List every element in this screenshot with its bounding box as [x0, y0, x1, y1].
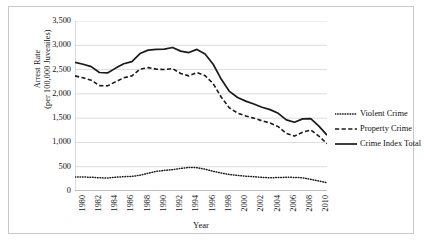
legend-item-violent-crime[interactable]: Violent Crime [335, 106, 421, 121]
y-axis-tick-label: 2,500 [37, 65, 71, 73]
y-axis-tick-labels: 3,5003,0002,5002,0001,5001,0005000 [33, 7, 71, 235]
y-axis-tick-label: 3,000 [37, 41, 71, 49]
chart-legend: Violent CrimeProperty CrimeCrime Index T… [335, 106, 421, 151]
legend-label: Crime Index Total [360, 139, 421, 148]
legend-swatch-solid [335, 139, 357, 149]
series-line-violent-crime [75, 167, 327, 182]
x-axis-tick-label: 1984 [111, 195, 119, 211]
plot-svg [75, 21, 327, 191]
plot-area [75, 21, 327, 191]
x-axis-tick-label: 2002 [257, 195, 265, 211]
chart-figure: Arrest Rate (per 100,000 Juveniles) 3,50… [0, 0, 424, 246]
y-axis-tick-label: 1,000 [37, 138, 71, 146]
legend-item-crime-index-total[interactable]: Crime Index Total [335, 136, 421, 151]
gridlines [75, 21, 327, 167]
x-axis-tick-label: 2008 [306, 195, 314, 211]
data-series-group [75, 47, 327, 182]
x-axis-title: Year [75, 220, 327, 230]
y-axis-tick-label: 2,000 [37, 90, 71, 98]
x-axis-tick-label: 1982 [95, 195, 103, 211]
x-axis-tick-label: 2000 [241, 195, 249, 211]
series-line-property-crime [75, 68, 327, 144]
legend-item-property-crime[interactable]: Property Crime [335, 121, 421, 136]
legend-swatch-dashed [335, 124, 357, 134]
x-axis-tick-label: 2006 [290, 195, 298, 211]
x-axis-tick-label: 1994 [192, 195, 200, 211]
y-axis-tick-label: 500 [37, 163, 71, 171]
series-line-crime-index-total [75, 47, 327, 135]
x-axis-tick-label: 2010 [322, 195, 330, 211]
x-axis-tick-label: 1988 [144, 195, 152, 211]
x-axis-tick-label: 1990 [160, 195, 168, 211]
x-axis-tick-label: 2004 [274, 195, 282, 211]
x-axis-tick-label: 1992 [176, 195, 184, 211]
y-axis-tick-label: 3,500 [37, 17, 71, 25]
chart-frame: Arrest Rate (per 100,000 Juveniles) 3,50… [8, 6, 414, 234]
legend-swatch-dotted [335, 109, 357, 119]
x-axis-tick-label: 1986 [127, 195, 135, 211]
y-axis-tick-label: 1,500 [37, 114, 71, 122]
legend-label: Violent Crime [360, 109, 408, 118]
x-axis-tick-label: 1996 [209, 195, 217, 211]
x-axis-tick-label: 1980 [79, 195, 87, 211]
y-axis-tick-label: 0 [37, 187, 71, 195]
x-axis-tick-label: 1998 [225, 195, 233, 211]
legend-label: Property Crime [360, 124, 412, 133]
